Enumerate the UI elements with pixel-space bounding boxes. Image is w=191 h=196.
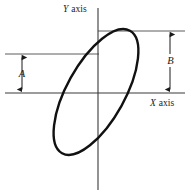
y-axis-label-variable: Y (63, 4, 70, 14)
x-axis-label: Xaxis (149, 98, 174, 108)
y-axis-label: Yaxis (63, 4, 87, 14)
dimension-a-group: A (18, 58, 26, 90)
x-axis-label-variable: X (149, 98, 157, 108)
lissajous-figure: A B Yaxis Xaxis (0, 0, 191, 196)
x-axis-label-word: axis (159, 98, 175, 108)
dimension-b-label: B (167, 55, 174, 66)
dimension-b-group: B (164, 35, 177, 90)
lissajous-ellipse-curve (37, 17, 156, 168)
dimension-a-label: A (18, 68, 26, 79)
y-axis-label-word: axis (71, 4, 87, 14)
figure-canvas: A B Yaxis Xaxis (0, 0, 191, 196)
